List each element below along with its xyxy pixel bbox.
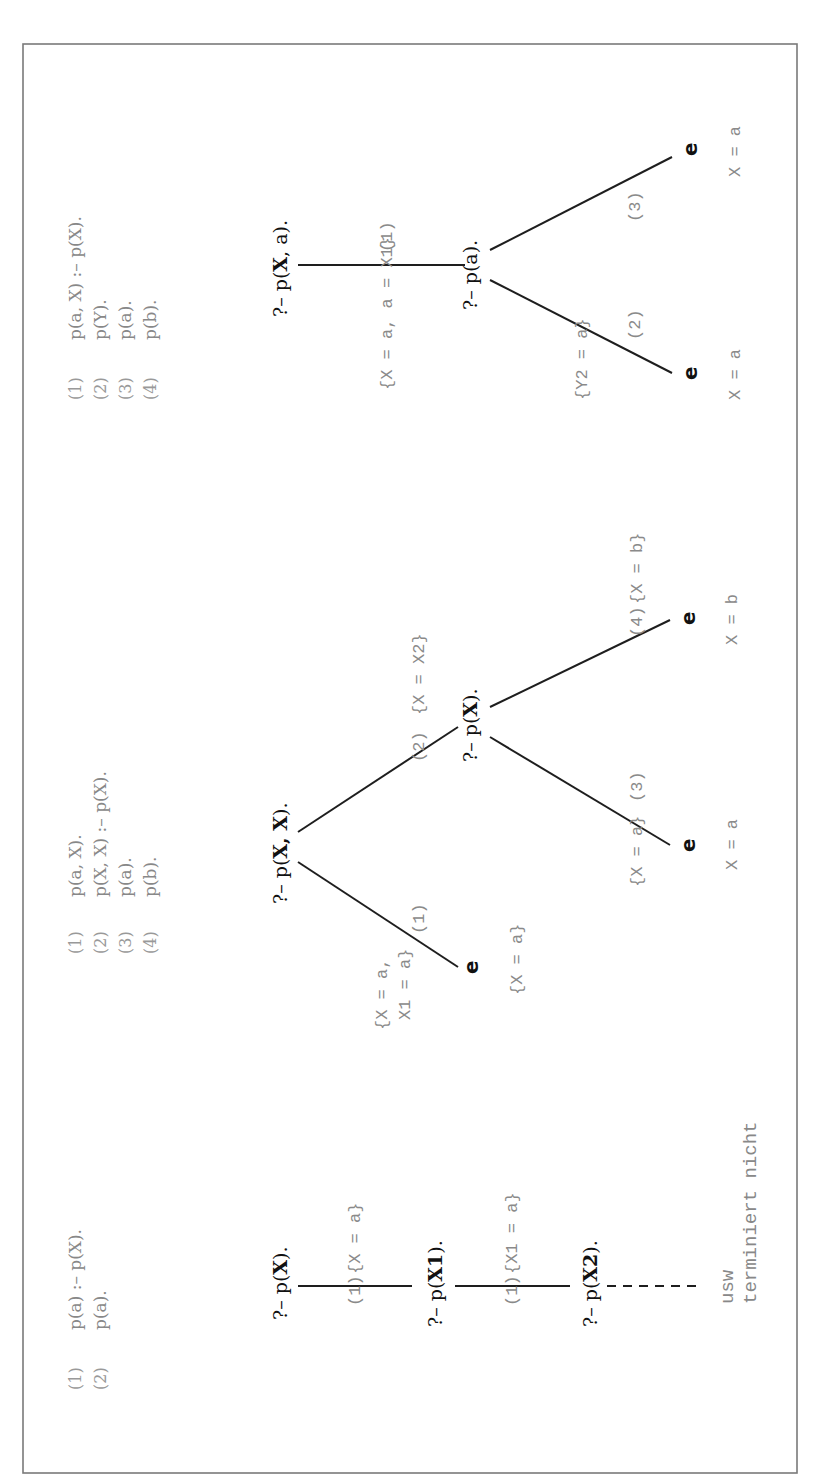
edge-rule-label: (2) (410, 731, 429, 762)
goal-node-root: ?– p(X, X). (269, 803, 291, 904)
resolution-edge (298, 727, 458, 832)
edge-substitution: {X = a} (346, 1203, 365, 1274)
edge-rule-label: (1) (503, 1275, 522, 1306)
note-nonterminating: terminiert nicht (740, 1122, 762, 1304)
goal-node-x1: ?– p(X1). (424, 1240, 446, 1327)
edge-rule-label: (3) (626, 191, 645, 222)
clause-number: (2) (91, 377, 110, 400)
edge-rule-label: (2) (626, 309, 645, 340)
clause-text: p(a). (115, 857, 135, 897)
panel-2: (1) p(a, X). (2) p(X, X) :– p(X). (3) p(… (65, 533, 742, 1030)
success-leaf: e (676, 611, 700, 625)
clause-number: (1) (66, 377, 85, 400)
success-leaf: e (459, 960, 483, 974)
panel-3: (1) p(a, X) :– p(X). (2) p(Y). (3) p(a).… (65, 126, 745, 400)
success-leaf: e (678, 366, 702, 380)
leaf-answer: X = a (723, 819, 742, 870)
note-usw: usw (717, 1269, 739, 1304)
leaf-answer: X = b (723, 594, 742, 645)
clause-text: p(X, X) :– p(X). (90, 771, 110, 897)
edge-rule-label: (4) (628, 606, 647, 637)
clause-text: p(Y). (90, 299, 110, 340)
panel-1: (1) p(a) :– p(X). (2) p(a). ?– p(X). (1)… (65, 1122, 762, 1390)
sld-tree-figure: (1) p(a) :– p(X). (2) p(a). ?– p(X). (1)… (0, 0, 813, 1482)
clause-text: p(a, X) :– p(X). (65, 216, 85, 340)
edge-substitution: {X = X2} (410, 633, 429, 715)
clause-text: p(a). (115, 300, 135, 340)
goal-node-inner: ?– p(a). (459, 240, 481, 310)
edge-rule-label: (1) (378, 221, 397, 252)
clause-text: p(a) :– p(X). (65, 1229, 85, 1330)
edge-rule-label: (1) (410, 903, 429, 934)
edge-rule-label: (1) (346, 1275, 365, 1306)
goal-node-root: ?– p(X). (269, 1246, 291, 1320)
edge-substitution: {X = a} (628, 816, 647, 887)
clause-text: p(b). (140, 300, 160, 340)
clause-number: (2) (91, 1367, 110, 1390)
success-leaf: e (676, 838, 700, 852)
edge-rule-label: (3) (628, 771, 647, 802)
program-2: (1) p(a, X). (2) p(X, X) :– p(X). (3) p(… (65, 771, 160, 954)
clause-number: (3) (116, 931, 135, 954)
clause-number: (2) (91, 931, 110, 954)
clause-text: p(a). (90, 1290, 110, 1330)
clause-number: (1) (66, 931, 85, 954)
leaf-answer: {X = a} (508, 924, 527, 995)
clause-number: (4) (141, 931, 160, 954)
program-1: (1) p(a) :– p(X). (2) p(a). (65, 1229, 110, 1390)
edge-substitution: X1 = a} (396, 949, 415, 1020)
goal-node-inner: ?– p(X). (459, 688, 481, 762)
resolution-edge (298, 862, 458, 967)
clause-text: p(a, X). (65, 834, 85, 897)
clause-number: (1) (66, 1367, 85, 1390)
edge-substitution: {X = a, a = X1} (378, 237, 397, 390)
clause-number: (4) (141, 377, 160, 400)
leaf-answer: X = a (726, 126, 745, 177)
goal-node-root: ?– p(X, a). (269, 220, 291, 317)
edge-substitution: {X1 = a} (503, 1192, 522, 1274)
goal-node-x2: ?– p(X2). (579, 1240, 601, 1327)
clause-text: p(b). (140, 857, 160, 897)
edge-substitution: {X = a, (373, 959, 392, 1030)
leaf-answer: X = a (726, 349, 745, 400)
program-3: (1) p(a, X) :– p(X). (2) p(Y). (3) p(a).… (65, 216, 160, 400)
clause-number: (3) (116, 377, 135, 400)
edge-substitution: {Y2 = a} (573, 318, 592, 400)
success-leaf: e (678, 142, 702, 156)
edge-substitution: {X = b} (628, 533, 647, 604)
